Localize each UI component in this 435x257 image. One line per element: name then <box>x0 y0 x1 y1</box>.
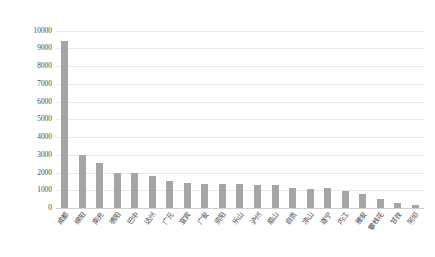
x-axis-tick: 巴中 <box>126 209 144 257</box>
y-axis-tick-label: 10000 <box>6 27 52 34</box>
x-axis-tick: 德阳 <box>109 209 127 257</box>
y-axis: 1000090008000700060005000400030002000100… <box>0 0 52 257</box>
x-axis-tick: 自贡 <box>284 209 302 257</box>
x-axis-tick: 凉山 <box>301 209 319 257</box>
x-axis-tick: 广安 <box>196 209 214 257</box>
x-axis-tick: 泸州 <box>249 209 267 257</box>
x-axis-tick: 宜宾 <box>179 209 197 257</box>
y-axis-tick-label: 8000 <box>6 62 52 69</box>
bar-slot <box>214 22 232 208</box>
x-axis-tick-label: 甘孜 <box>390 211 404 226</box>
x-axis-tick-label: 攀枝花 <box>368 211 386 232</box>
bar[interactable] <box>324 188 331 208</box>
x-axis-tick: 攀枝花 <box>371 209 389 257</box>
bar[interactable] <box>79 155 86 208</box>
y-axis-tick-label: 6000 <box>6 98 52 105</box>
bar[interactable] <box>254 185 261 208</box>
bar-slot <box>56 22 74 208</box>
plot-area <box>56 22 424 208</box>
x-axis-tick: 资阳 <box>214 209 232 257</box>
bar[interactable] <box>219 184 226 208</box>
bar[interactable] <box>149 176 156 208</box>
x-axis-tick-label: 宜宾 <box>179 211 193 226</box>
x-axis-tick-label: 遂宁 <box>320 211 334 226</box>
y-axis-tick-label: 7000 <box>6 80 52 87</box>
x-axis-tick: 乐山 <box>231 209 249 257</box>
bar-slot <box>109 22 127 208</box>
bar[interactable] <box>166 181 173 209</box>
x-axis-tick-label: 雅安 <box>355 211 369 226</box>
x-axis-tick-label: 广元 <box>162 211 176 226</box>
x-axis-tick-label: 南充 <box>92 211 106 226</box>
x-axis-tick-label: 乐山 <box>232 211 246 226</box>
x-axis-tick-label: 凉山 <box>302 211 316 226</box>
bar[interactable] <box>342 191 349 208</box>
x-axis-tick: 绵阳 <box>74 209 92 257</box>
bar-slot <box>179 22 197 208</box>
bar[interactable] <box>96 163 103 208</box>
bar[interactable] <box>377 199 384 208</box>
bar-slot <box>231 22 249 208</box>
bar[interactable] <box>289 188 296 208</box>
bar-slot <box>91 22 109 208</box>
bar-slot <box>406 22 424 208</box>
x-axis-tick: 甘孜 <box>389 209 407 257</box>
bar[interactable] <box>201 184 208 208</box>
bar-slot <box>161 22 179 208</box>
x-axis-tick-label: 内江 <box>337 211 351 226</box>
x-axis-tick-label: 绵阳 <box>74 211 88 226</box>
x-axis-tick: 阿坝 <box>406 209 424 257</box>
bar[interactable] <box>272 185 279 208</box>
x-axis-tick: 内江 <box>336 209 354 257</box>
x-axis-tick-label: 泸州 <box>249 211 263 226</box>
bar-slot <box>336 22 354 208</box>
x-axis-tick: 广元 <box>161 209 179 257</box>
x-axis-tick-label: 达州 <box>144 211 158 226</box>
bar-slot <box>126 22 144 208</box>
x-axis-tick: 达州 <box>144 209 162 257</box>
bar-slot <box>354 22 372 208</box>
y-axis-tick-label: 5000 <box>6 115 52 122</box>
x-axis-tick-label: 阿坝 <box>407 211 421 226</box>
bar[interactable] <box>236 184 243 208</box>
x-axis-tick-label: 资阳 <box>214 211 228 226</box>
bar-slot <box>144 22 162 208</box>
x-axis-tick-label: 巴中 <box>127 211 141 226</box>
bar-slot <box>266 22 284 208</box>
y-axis-tick-label: 3000 <box>6 151 52 158</box>
x-axis-tick: 成都 <box>56 209 74 257</box>
x-axis-tick-label: 广安 <box>197 211 211 226</box>
y-axis-tick-label: 1000 <box>6 186 52 193</box>
bar-slot <box>319 22 337 208</box>
bar-chart: 1000090008000700060005000400030002000100… <box>0 0 435 257</box>
y-axis-tick-label: 4000 <box>6 133 52 140</box>
bar-slot <box>196 22 214 208</box>
x-axis: 成都绵阳南充德阳巴中达州广元宜宾广安资阳乐山泸州眉山自贡凉山遂宁内江雅安攀枝花甘… <box>56 209 424 257</box>
bar[interactable] <box>114 173 121 209</box>
x-axis-tick: 南充 <box>91 209 109 257</box>
bar-slot <box>371 22 389 208</box>
bar[interactable] <box>307 189 314 208</box>
y-axis-tick-label: 0 <box>6 204 52 211</box>
bar-slot <box>389 22 407 208</box>
bar-slot <box>284 22 302 208</box>
x-axis-tick: 眉山 <box>266 209 284 257</box>
x-axis-tick-label: 眉山 <box>267 211 281 226</box>
bar[interactable] <box>184 183 191 208</box>
x-axis-tick-label: 自贡 <box>285 211 299 226</box>
y-axis-tick-label: 9000 <box>6 44 52 51</box>
bar-slot <box>301 22 319 208</box>
bar[interactable] <box>61 41 68 208</box>
bar-slot <box>74 22 92 208</box>
bar[interactable] <box>131 173 138 208</box>
x-axis-tick-label: 成都 <box>57 211 71 226</box>
x-axis-tick: 遂宁 <box>319 209 337 257</box>
x-axis-tick: 雅安 <box>354 209 372 257</box>
y-axis-tick-label: 2000 <box>6 169 52 176</box>
x-axis-tick-label: 德阳 <box>109 211 123 226</box>
bar-slot <box>249 22 267 208</box>
bar[interactable] <box>359 194 366 208</box>
